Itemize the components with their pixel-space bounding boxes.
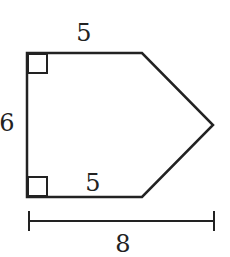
label-left-side: 6 [0,109,15,137]
right-angle-marker-top [28,54,47,73]
label-total-width: 8 [115,230,130,257]
dimension-line-width [29,211,214,231]
label-top-side: 5 [76,19,91,47]
pentagon-shape [27,53,213,197]
label-bottom-side: 5 [85,169,100,197]
pentagon-diagram: 5 6 5 8 [0,0,230,257]
right-angle-marker-bottom [28,177,47,196]
